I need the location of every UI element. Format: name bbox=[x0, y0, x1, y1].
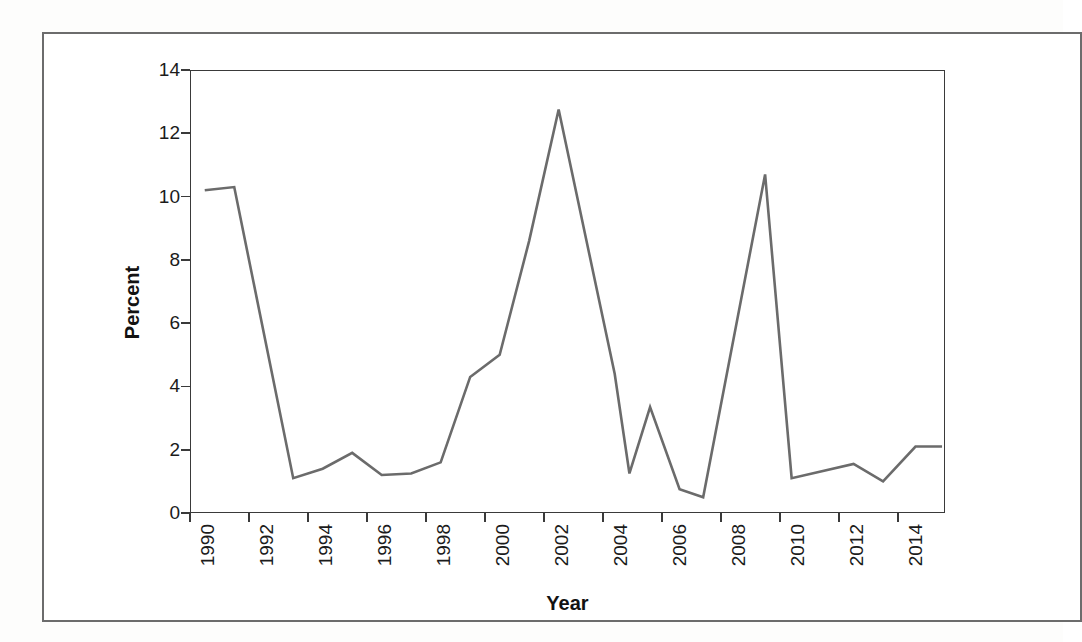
x-axis-tick-labels: 1990199219941996199820002002200420062008… bbox=[190, 524, 945, 588]
y-tick-mark bbox=[181, 132, 190, 134]
x-tick-mark bbox=[366, 513, 368, 522]
y-tick-label: 4 bbox=[169, 375, 180, 397]
data-series-layer bbox=[190, 70, 945, 513]
x-tick-mark bbox=[602, 513, 604, 522]
x-tick-mark bbox=[484, 513, 486, 522]
x-tick-label: 2000 bbox=[492, 524, 514, 566]
x-tick-mark bbox=[661, 513, 663, 522]
x-tick-label: 2006 bbox=[669, 524, 691, 566]
y-tick-mark bbox=[181, 69, 190, 71]
y-tick-label: 8 bbox=[169, 249, 180, 271]
y-tick-label: 10 bbox=[159, 186, 180, 208]
y-tick-mark bbox=[181, 449, 190, 451]
x-tick-label: 2004 bbox=[610, 524, 632, 566]
y-tick-mark bbox=[181, 386, 190, 388]
x-tick-mark bbox=[897, 513, 899, 522]
x-tick-mark bbox=[838, 513, 840, 522]
x-axis-title: Year bbox=[190, 592, 945, 615]
y-tick-label: 12 bbox=[159, 122, 180, 144]
x-tick-mark bbox=[248, 513, 250, 522]
series-line-percent bbox=[205, 110, 942, 498]
x-tick-label: 1994 bbox=[315, 524, 337, 566]
y-tick-label: 2 bbox=[169, 439, 180, 461]
x-axis-tick-marks bbox=[190, 513, 945, 522]
x-tick-label: 2010 bbox=[787, 524, 809, 566]
x-tick-label: 1996 bbox=[374, 524, 396, 566]
y-tick-label: 14 bbox=[159, 59, 180, 81]
x-tick-label: 2012 bbox=[846, 524, 868, 566]
x-tick-mark bbox=[720, 513, 722, 522]
y-tick-label: 0 bbox=[169, 502, 180, 524]
x-tick-label: 2002 bbox=[551, 524, 573, 566]
y-tick-label: 6 bbox=[169, 312, 180, 334]
x-tick-mark bbox=[779, 513, 781, 522]
y-tick-mark bbox=[181, 322, 190, 324]
y-axis-tick-marks bbox=[181, 70, 190, 513]
x-tick-label: 2014 bbox=[905, 524, 927, 566]
x-tick-mark bbox=[425, 513, 427, 522]
y-axis-tick-labels: 02468101214 bbox=[150, 70, 180, 513]
x-tick-mark bbox=[543, 513, 545, 522]
x-tick-label: 2008 bbox=[728, 524, 750, 566]
y-tick-mark bbox=[181, 196, 190, 198]
x-tick-mark bbox=[307, 513, 309, 522]
y-axis-title: Percent bbox=[121, 266, 144, 339]
x-tick-mark bbox=[189, 513, 191, 522]
x-tick-label: 1998 bbox=[433, 524, 455, 566]
y-tick-mark bbox=[181, 259, 190, 261]
x-tick-label: 1990 bbox=[197, 524, 219, 566]
x-tick-label: 1992 bbox=[256, 524, 278, 566]
